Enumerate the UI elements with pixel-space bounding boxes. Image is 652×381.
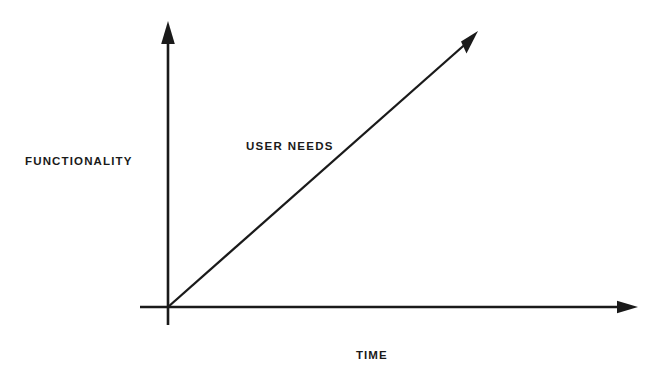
- x-axis-arrowhead-icon: [617, 301, 638, 313]
- user-needs-arrowhead-icon: [461, 31, 478, 54]
- user-needs-line-chart: [0, 0, 652, 381]
- series-label-user-needs: USER NEEDS: [246, 140, 334, 152]
- y-axis-label: FUNCTIONALITY: [25, 155, 133, 167]
- user-needs-trend-line: [168, 40, 470, 307]
- y-axis-arrowhead-icon: [161, 21, 175, 44]
- x-axis-label: TIME: [356, 349, 388, 361]
